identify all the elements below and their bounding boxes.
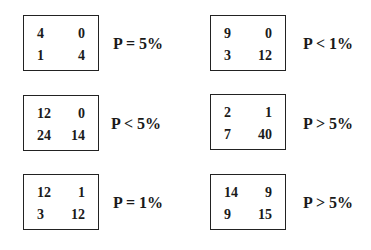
cell-bottom-left: 3	[224, 49, 231, 63]
cell-bottom-left: 7	[224, 128, 231, 142]
contingency-table-2: 9 0 3 12	[210, 15, 286, 71]
contingency-table-5: 12 1 3 12	[23, 174, 99, 230]
cell-bottom-right: 14	[71, 129, 85, 143]
cell-top-right: 1	[78, 186, 85, 200]
cell-top-right: 1	[265, 106, 272, 120]
p-value-4: P > 5%	[303, 116, 353, 132]
contingency-table-6: 14 9 9 15	[210, 174, 286, 230]
p-value-1: P = 5%	[113, 36, 163, 52]
contingency-table-3: 12 0 24 14	[23, 95, 99, 151]
p-value-3: P < 5%	[111, 116, 161, 132]
cell-top-right: 0	[78, 27, 85, 41]
cell-top-right: 0	[265, 27, 272, 41]
cell-bottom-right: 12	[258, 49, 272, 63]
p-value-2: P < 1%	[303, 36, 353, 52]
cell-top-left: 4	[37, 27, 44, 41]
cell-top-left: 9	[224, 27, 231, 41]
contingency-table-1: 4 0 1 4	[23, 15, 99, 71]
cell-top-right: 9	[265, 186, 272, 200]
cell-bottom-right: 12	[71, 208, 85, 222]
cell-bottom-right: 4	[78, 49, 85, 63]
cell-top-right: 0	[78, 107, 85, 121]
cell-bottom-right: 15	[258, 208, 272, 222]
cell-top-left: 14	[224, 186, 238, 200]
cell-bottom-left: 9	[224, 208, 231, 222]
cell-top-left: 12	[37, 107, 51, 121]
cell-bottom-left: 3	[37, 208, 44, 222]
cell-bottom-left: 24	[37, 129, 51, 143]
cell-top-left: 2	[224, 106, 231, 120]
contingency-table-4: 2 1 7 40	[210, 94, 286, 150]
p-value-5: P = 1%	[113, 195, 163, 211]
cell-top-left: 12	[37, 186, 51, 200]
p-value-6: P > 5%	[303, 195, 353, 211]
cell-bottom-left: 1	[37, 49, 44, 63]
cell-bottom-right: 40	[258, 128, 272, 142]
